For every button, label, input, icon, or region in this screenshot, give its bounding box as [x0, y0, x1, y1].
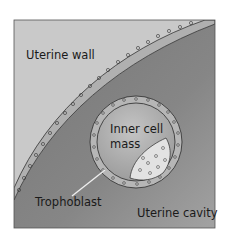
label-inner-cell-mass-1: Inner cell: [110, 123, 163, 136]
label-uterine-cavity: Uterine cavity: [137, 207, 218, 220]
label-trophoblast: Trophoblast: [35, 196, 102, 209]
label-inner-cell-mass-2: mass: [110, 138, 140, 151]
label-uterine-wall: Uterine wall: [26, 49, 95, 62]
